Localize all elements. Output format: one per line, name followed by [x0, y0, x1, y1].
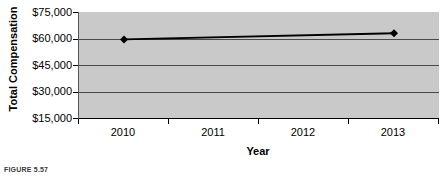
x-axis-tick-label: 2011	[168, 126, 258, 138]
series-line	[124, 33, 394, 39]
x-axis-tick-label: 2010	[78, 126, 168, 138]
x-axis-title: Year	[78, 145, 438, 157]
x-axis-tick-mark	[438, 119, 439, 124]
y-axis-tick-mark	[73, 39, 78, 40]
x-axis-tick-mark	[348, 119, 349, 124]
y-axis-tick-label: $45,000	[18, 60, 72, 71]
x-axis-tick-label: 2012	[258, 126, 348, 138]
x-axis-tick-label: 2013	[348, 126, 438, 138]
figure-caption: FIGURE 5.57	[4, 166, 48, 173]
y-axis-tick-label: $75,000	[18, 7, 72, 18]
y-axis-tick-mark	[73, 92, 78, 93]
y-axis-tick-label-group: $75,000$60,000$45,000$30,000$15,000	[18, 12, 72, 118]
y-axis-tick-label: $60,000	[18, 33, 72, 44]
data-point-marker	[390, 29, 398, 37]
x-axis-tick-mark	[168, 119, 169, 124]
data-point-marker	[120, 35, 128, 43]
x-axis-tick-mark	[78, 119, 79, 124]
y-axis-tick-label: $30,000	[18, 86, 72, 97]
y-axis-tick-mark	[73, 65, 78, 66]
plot-area	[78, 12, 439, 119]
y-axis-tick-label: $15,000	[18, 113, 72, 124]
data-series-layer	[79, 12, 439, 118]
x-axis-tick-mark	[258, 119, 259, 124]
figure-container: Total Compensation $75,000$60,000$45,000…	[0, 0, 443, 176]
y-axis-tick-mark	[73, 12, 78, 13]
plot-inner	[79, 12, 439, 118]
